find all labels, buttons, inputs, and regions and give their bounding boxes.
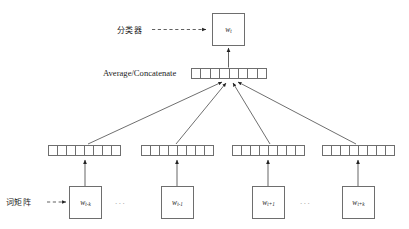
embedding-to-average-arrow-4 <box>238 82 356 144</box>
vector-cell <box>76 146 85 155</box>
vector-cell <box>205 146 213 155</box>
vector-cell <box>323 146 332 155</box>
average-concatenate-label: Average/Concatenate <box>103 68 176 78</box>
vector-cell <box>260 146 269 155</box>
word-matrix-label: 词矩阵 <box>6 196 31 207</box>
vector-cell <box>160 146 169 155</box>
vector-cell <box>112 146 120 155</box>
vector-cell <box>201 69 210 78</box>
vector-cell <box>196 146 205 155</box>
embedding-to-average-arrow-1 <box>88 82 222 144</box>
vector-cell <box>332 146 341 155</box>
context-word-box-2: wt-1 <box>161 186 194 219</box>
vector-cell <box>230 69 239 78</box>
vector-cell <box>341 146 350 155</box>
ellipsis-left: ... <box>115 196 126 206</box>
output-word-box: wt <box>212 13 245 46</box>
embedding-to-average-arrow-2 <box>176 83 226 144</box>
vector-cell <box>169 146 178 155</box>
classifier-label: 分类器 <box>117 24 142 35</box>
vector-cell <box>187 146 196 155</box>
embedding-vector-1 <box>48 145 121 156</box>
vector-cell <box>94 146 103 155</box>
vector-cell <box>151 146 160 155</box>
vector-cell <box>211 69 220 78</box>
vector-cell <box>178 146 187 155</box>
vector-cell <box>377 146 386 155</box>
output-word-symbol: wt <box>225 26 231 34</box>
vector-cell <box>258 69 266 78</box>
vector-cell <box>386 146 394 155</box>
context-word-box-3: wt+1 <box>252 186 285 219</box>
vector-cell <box>85 146 94 155</box>
vector-cell <box>142 146 151 155</box>
embedding-vector-2 <box>141 145 214 156</box>
ellipsis-right: ... <box>300 196 311 206</box>
vector-cell <box>251 146 260 155</box>
vector-cell <box>49 146 58 155</box>
vector-cell <box>192 69 201 78</box>
vector-cell <box>248 69 257 78</box>
vector-cell <box>233 146 242 155</box>
vector-cell <box>67 146 76 155</box>
embedding-vector-4 <box>322 145 395 156</box>
context-word-symbol: wt+1 <box>262 199 275 207</box>
vector-cell <box>278 146 287 155</box>
vector-cell <box>103 146 112 155</box>
embedding-to-average-arrow-3 <box>233 83 270 144</box>
average-concatenate-vector <box>191 68 267 79</box>
context-word-symbol: wt-k <box>80 199 91 207</box>
vector-cell <box>58 146 67 155</box>
context-word-box-4: wt+k <box>342 186 375 219</box>
context-word-symbol: wt+k <box>352 199 364 207</box>
vector-cell <box>242 146 251 155</box>
vector-cell <box>350 146 359 155</box>
cbow-architecture-diagram: 分类器 wt Average/Concatenate <box>0 0 409 229</box>
vector-cell <box>368 146 377 155</box>
vector-cell <box>287 146 296 155</box>
context-word-box-1: wt-k <box>69 186 102 219</box>
vector-cell <box>220 69 229 78</box>
vector-cell <box>269 146 278 155</box>
vector-cell <box>359 146 368 155</box>
embedding-vector-3 <box>232 145 305 156</box>
vector-cell <box>296 146 304 155</box>
vector-cell <box>239 69 248 78</box>
context-word-symbol: wt-1 <box>172 199 183 207</box>
